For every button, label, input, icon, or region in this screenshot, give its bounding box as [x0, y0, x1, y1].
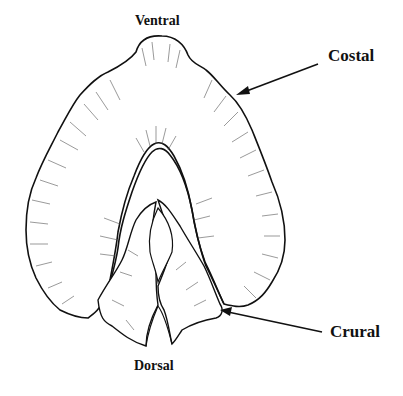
crural-label: Crural — [330, 322, 380, 342]
dorsal-label: Dorsal — [134, 358, 174, 374]
costal-arrow — [236, 64, 318, 95]
ventral-label: Ventral — [135, 13, 180, 29]
crural-arrow — [220, 307, 322, 332]
costal-label: Costal — [328, 46, 374, 66]
